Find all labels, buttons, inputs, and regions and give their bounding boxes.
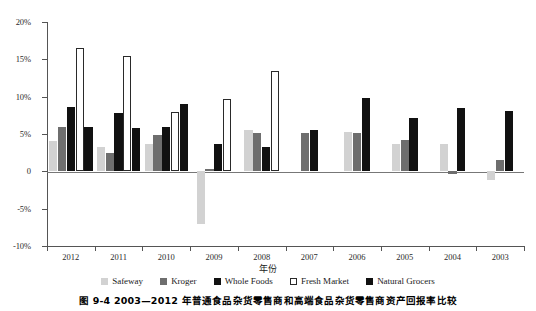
legend-item-whole-foods: Whole Foods — [214, 276, 273, 286]
bar-kroger-2004 — [448, 171, 456, 174]
bar-safeway-2003 — [487, 171, 495, 180]
x-axis-label: 2010 — [158, 252, 175, 262]
bar-kroger-2003 — [496, 160, 504, 171]
legend-swatch-icon — [101, 278, 108, 285]
bar-safeway-2009 — [197, 171, 205, 223]
legend-label: Kroger — [171, 276, 197, 286]
bar-kroger-2008 — [253, 133, 261, 171]
y-axis-label: 15% — [16, 54, 31, 64]
x-tick-mark — [286, 246, 287, 251]
x-tick-mark — [429, 246, 430, 251]
bar-natural-grocers-2010 — [180, 104, 188, 171]
bar-fresh-market-2011 — [123, 56, 131, 172]
x-axis-label: 2003 — [492, 252, 509, 262]
legend-item-safeway: Safeway — [101, 276, 143, 286]
bar-safeway-2011 — [97, 147, 105, 171]
legend-item-fresh-market: Fresh Market — [290, 276, 349, 286]
bar-kroger-2007 — [301, 133, 309, 172]
bar-fresh-market-2012 — [76, 48, 84, 171]
x-axis-label: 2011 — [110, 252, 127, 262]
bar-whole-foods-2011 — [114, 113, 122, 171]
y-axis-label: 10% — [16, 92, 31, 102]
y-axis-line — [47, 22, 48, 246]
y-tick-mark — [42, 59, 47, 60]
x-axis-label: 2007 — [301, 252, 318, 262]
y-tick-mark — [42, 97, 47, 98]
x-tick-mark — [190, 246, 191, 251]
bar-natural-grocers-2011 — [132, 128, 140, 171]
x-tick-mark — [142, 246, 143, 251]
x-tick-mark — [333, 246, 334, 251]
legend-item-kroger: Kroger — [160, 276, 197, 286]
y-tick-mark — [42, 22, 47, 23]
bar-kroger-2011 — [106, 153, 114, 172]
bar-natural-grocers-2005 — [409, 118, 417, 171]
x-axis-label: 2009 — [205, 252, 222, 262]
bar-natural-grocers-2004 — [457, 108, 465, 171]
x-tick-mark — [238, 246, 239, 251]
legend-swatch-icon — [160, 278, 167, 285]
bar-whole-foods-2009 — [214, 144, 222, 172]
bar-kroger-2012 — [58, 127, 66, 172]
bar-whole-foods-2010 — [162, 127, 170, 172]
y-tick-mark — [42, 134, 47, 135]
x-tick-mark — [47, 246, 48, 251]
bar-safeway-2004 — [440, 144, 448, 171]
x-tick-mark — [476, 246, 477, 251]
y-tick-mark — [42, 209, 47, 210]
legend-label: Fresh Market — [301, 276, 349, 286]
bar-fresh-market-2008 — [271, 71, 279, 172]
y-axis-label: 0 — [27, 166, 31, 176]
figure-container: 20%15%10%5%0-5%-10% 20122011201020092008… — [0, 0, 536, 311]
y-axis-label: 20% — [16, 17, 31, 27]
bar-whole-foods-2012 — [67, 107, 75, 171]
x-axis-label: 2012 — [62, 252, 79, 262]
figure-caption: 图 9-4 2003—2012 年普通食品杂货零售商和高端食品杂货零售商资产回报… — [0, 293, 536, 307]
y-tick-mark — [42, 171, 47, 172]
bar-kroger-2009 — [205, 169, 213, 171]
bar-natural-grocers-2003 — [505, 111, 513, 171]
bar-whole-foods-2008 — [262, 147, 270, 171]
y-axis-label: 5% — [20, 129, 31, 139]
bar-safeway-2008 — [244, 130, 252, 171]
x-axis-label: 2008 — [253, 252, 270, 262]
chart-legend: SafewayKrogerWhole FoodsFresh MarketNatu… — [0, 276, 536, 286]
legend-swatch-icon — [366, 278, 373, 285]
x-tick-mark — [95, 246, 96, 251]
bar-fresh-market-2009 — [223, 99, 231, 171]
x-tick-mark — [381, 246, 382, 251]
bar-natural-grocers-2006 — [362, 98, 370, 171]
bar-safeway-2006 — [344, 132, 352, 172]
legend-label: Safeway — [112, 276, 143, 286]
x-axis-title: 年份 — [0, 262, 536, 275]
legend-label: Natural Grocers — [377, 276, 435, 286]
bar-safeway-2005 — [392, 144, 400, 171]
legend-label: Whole Foods — [225, 276, 273, 286]
x-tick-mark — [524, 246, 525, 251]
legend-swatch-icon — [290, 278, 297, 285]
bar-kroger-2006 — [353, 133, 361, 172]
chart-plot-area: 20%15%10%5%0-5%-10% 20122011201020092008… — [47, 22, 524, 246]
bar-safeway-2010 — [145, 144, 153, 172]
x-axis-label: 2005 — [396, 252, 413, 262]
x-axis-label: 2004 — [444, 252, 461, 262]
bar-safeway-2012 — [49, 141, 57, 171]
legend-item-natural-grocers: Natural Grocers — [366, 276, 435, 286]
bar-natural-grocers-2007 — [310, 130, 318, 171]
bar-fresh-market-2010 — [171, 112, 179, 172]
y-axis-label: -5% — [17, 204, 31, 214]
x-axis-label: 2006 — [349, 252, 366, 262]
bar-kroger-2010 — [153, 135, 161, 172]
bar-kroger-2005 — [401, 140, 409, 171]
bar-natural-grocers-2012 — [84, 127, 92, 172]
legend-swatch-icon — [214, 278, 221, 285]
y-axis-label: -10% — [13, 241, 31, 251]
